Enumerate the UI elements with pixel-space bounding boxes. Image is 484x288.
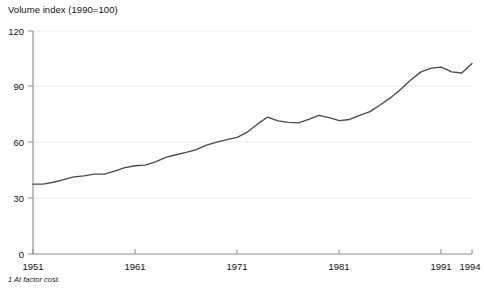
x-tick-label-1951: 1951 <box>22 261 43 272</box>
x-axis-ticks <box>33 249 472 254</box>
x-tick-label-1994: 1994 <box>459 261 480 272</box>
y-tick-label-60: 60 <box>13 137 24 148</box>
chart-figure: Volume index (1990=100) 120 90 60 30 0 <box>0 0 484 288</box>
x-tick-label-1961: 1961 <box>124 261 145 272</box>
y-axis-ticks <box>28 31 33 254</box>
gridlines <box>33 31 472 198</box>
y-tick-label-90: 90 <box>13 81 24 92</box>
y-tick-label-30: 30 <box>13 193 24 204</box>
chart-footnote: 1 At factor cost. <box>8 275 60 285</box>
y-tick-label-0: 0 <box>19 249 24 260</box>
x-tick-label-1981: 1981 <box>328 261 349 272</box>
x-tick-label-1971: 1971 <box>226 261 247 272</box>
line-chart-plot: 120 90 60 30 0 1951 1961 1971 1981 1991 … <box>0 0 484 288</box>
x-tick-label-1991: 1991 <box>430 261 451 272</box>
data-series-line <box>33 64 472 185</box>
y-tick-label-120: 120 <box>8 26 24 37</box>
